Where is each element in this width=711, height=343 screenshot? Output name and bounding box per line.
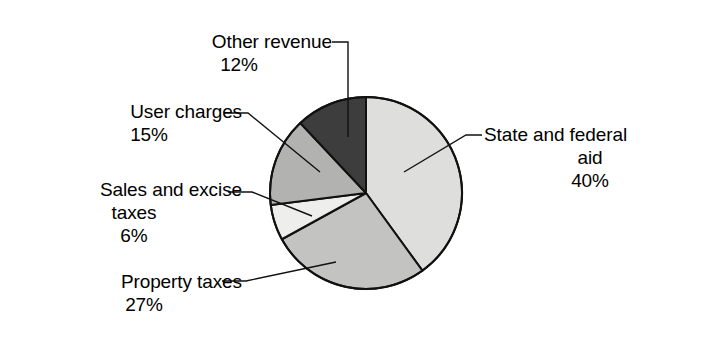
pie-label-sales-excise-taxes-percent: 6% [26, 224, 242, 247]
pie-label-user-charges-percent: 15% [56, 123, 242, 146]
pie-label-state-federal-aid-name2: aid [484, 146, 696, 169]
pie-label-other-revenue-name: Other revenue [146, 30, 332, 53]
pie-label-state-federal-aid-name: State and federal [484, 123, 696, 146]
pie-label-property-taxes-percent: 27% [46, 293, 242, 316]
pie-label-property-taxes-name: Property taxes [46, 270, 242, 293]
pie-label-other-revenue: Other revenue 12% [146, 30, 332, 76]
pie-slice-group [270, 97, 462, 289]
pie-label-sales-excise-taxes-name: Sales and excise [26, 178, 242, 201]
pie-label-sales-excise-taxes-name2: taxes [26, 201, 242, 224]
pie-chart-figure: Other revenue 12% User charges 15% Sales… [0, 0, 711, 343]
pie-label-user-charges: User charges 15% [56, 100, 242, 146]
pie-label-state-federal-aid-percent: 40% [484, 169, 696, 192]
pie-label-property-taxes: Property taxes 27% [46, 270, 242, 316]
pie-label-sales-excise-taxes: Sales and excise taxes 6% [26, 178, 242, 248]
pie-label-user-charges-name: User charges [56, 100, 242, 123]
pie-label-state-federal-aid: State and federal aid 40% [484, 123, 696, 193]
pie-label-other-revenue-percent: 12% [146, 53, 332, 76]
